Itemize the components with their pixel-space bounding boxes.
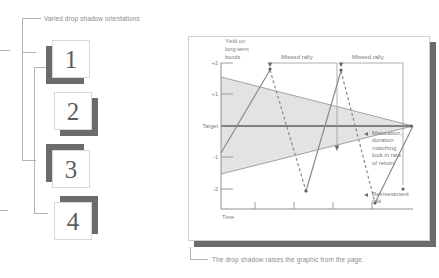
- sample-box-1[interactable]: 1: [46, 40, 92, 86]
- annotation-maturation: Maturation,durationmatchinglock in rateo…: [372, 130, 434, 167]
- left-edge-tick-lower: [0, 210, 8, 211]
- y-tick-label-plus2: +2: [212, 60, 218, 66]
- sample-box-4-number: 4: [67, 209, 80, 234]
- x-axis-title: Time: [222, 214, 234, 220]
- left-edge-tick: [0, 50, 10, 51]
- annotation-missed-rally-2-arrow-up: [339, 63, 344, 68]
- page-canvas: Varied drop shadow orientations 1 2 3 4: [0, 0, 439, 278]
- sample-box-2-face[interactable]: 2: [54, 92, 92, 130]
- bracket-inner-vertical: [34, 67, 35, 214]
- marker-maturation: [409, 124, 412, 127]
- sample-box-3[interactable]: 3: [46, 144, 92, 190]
- annotation-maturation-arrow-icon: [364, 132, 368, 136]
- sample-box-4-face[interactable]: 4: [54, 202, 92, 240]
- bottom-caption-text: The drop shadow raises the graphic from …: [212, 256, 364, 263]
- annotation-reinvestment-risk-arrow-icon: [364, 193, 368, 197]
- y-tick-label-minus2: -2: [213, 186, 218, 192]
- marker-peak-1: [268, 67, 271, 70]
- sample-box-3-face[interactable]: 3: [52, 150, 90, 188]
- top-caption-leader-line: [22, 18, 41, 19]
- annotation-reinvestment-risk: Reinvestmentrisk: [372, 191, 434, 206]
- sample-box-1-number: 1: [65, 47, 78, 72]
- y-axis-title-line-3: bonds: [225, 54, 240, 60]
- sample-box-2[interactable]: 2: [54, 92, 100, 138]
- bracket-outer-vertical: [22, 18, 23, 161]
- bracket-outer-top-arm: [22, 52, 36, 53]
- top-caption-text: Varied drop shadow orientations: [44, 15, 140, 22]
- bracket-inner-bottom-arm: [34, 213, 48, 214]
- annotation-missed-rally-1-label: Missed rally: [281, 54, 313, 60]
- marker-peak-2: [339, 68, 342, 71]
- annotation-missed-rally-1-arrow-up: [268, 63, 273, 68]
- sample-box-3-number: 3: [65, 157, 78, 182]
- sample-box-4[interactable]: 4: [54, 196, 100, 242]
- y-tick-label-target: Target: [202, 123, 218, 129]
- marker-trough-1: [304, 189, 307, 192]
- sample-box-2-number: 2: [67, 99, 80, 124]
- bottom-caption-leader-horizontal: [190, 259, 208, 260]
- sample-box-1-face[interactable]: 1: [52, 40, 90, 78]
- y-tick-label-minus1: -1: [213, 154, 218, 160]
- annotation-missed-rally-2-label: Missed rally: [352, 54, 384, 60]
- bottom-caption-leader-vertical: [190, 247, 191, 259]
- y-tick-label-plus1: +1: [212, 91, 218, 97]
- y-axis-title-line-2: long-term: [225, 46, 249, 52]
- y-axis-title-line-1: Yield on: [225, 38, 245, 44]
- annotation-reinvestment-risk-label: Reinvestmentrisk: [372, 191, 434, 206]
- annotation-missed-rally-1-arrow-down: [335, 146, 340, 152]
- annotation-maturation-label: Maturation,durationmatchinglock in rateo…: [372, 130, 434, 167]
